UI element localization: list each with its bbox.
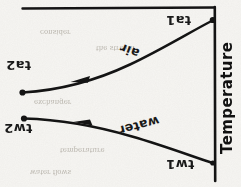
air-flow-arrowhead bbox=[71, 76, 91, 83]
plot-drawing bbox=[0, 0, 241, 187]
air-curve bbox=[23, 21, 213, 93]
air-outlet-temperature-label: ta2 bbox=[6, 59, 31, 72]
water-outlet-temperature-label: tw2 bbox=[4, 122, 32, 135]
air-inlet-point bbox=[210, 17, 216, 23]
water-inlet-temperature-label: tw1 bbox=[166, 158, 194, 171]
water-inlet-point bbox=[210, 160, 215, 165]
temperature-axis-label: Temperature bbox=[218, 28, 240, 168]
air-outlet-point bbox=[19, 89, 25, 95]
horizontal-axis-line bbox=[23, 8, 215, 9]
hand-drawn-temperature-profile-figure: consider the stream exchanger temperatur… bbox=[0, 0, 241, 187]
air-inlet-temperature-label: ta1 bbox=[166, 14, 191, 27]
